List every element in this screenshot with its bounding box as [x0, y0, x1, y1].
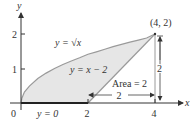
- area-diagram: y x 0 2 4 1 2 y = √x y = x − 2 y = 0 (4,…: [0, 0, 193, 128]
- x-tick-label-2: 2: [85, 108, 90, 119]
- y-tick-label-1: 1: [12, 64, 17, 75]
- line-curve-label: y = x − 2: [69, 64, 107, 75]
- y-tick-label-2: 2: [12, 29, 17, 40]
- point-label: (4, 2): [150, 17, 172, 29]
- horizontal-dimension-label: 2: [117, 90, 122, 101]
- vertical-dimension-label: 2: [157, 63, 162, 74]
- x-tick-label-4: 4: [152, 108, 157, 119]
- zero-line-label: y = 0: [36, 108, 58, 119]
- y-axis-label: y: [16, 0, 22, 11]
- origin-label: 0: [11, 108, 16, 119]
- point-4-2: [154, 33, 156, 35]
- x-axis-label: x: [184, 97, 190, 108]
- sqrt-curve-label: y = √x: [54, 37, 82, 48]
- area-label: Area = 2: [112, 78, 147, 89]
